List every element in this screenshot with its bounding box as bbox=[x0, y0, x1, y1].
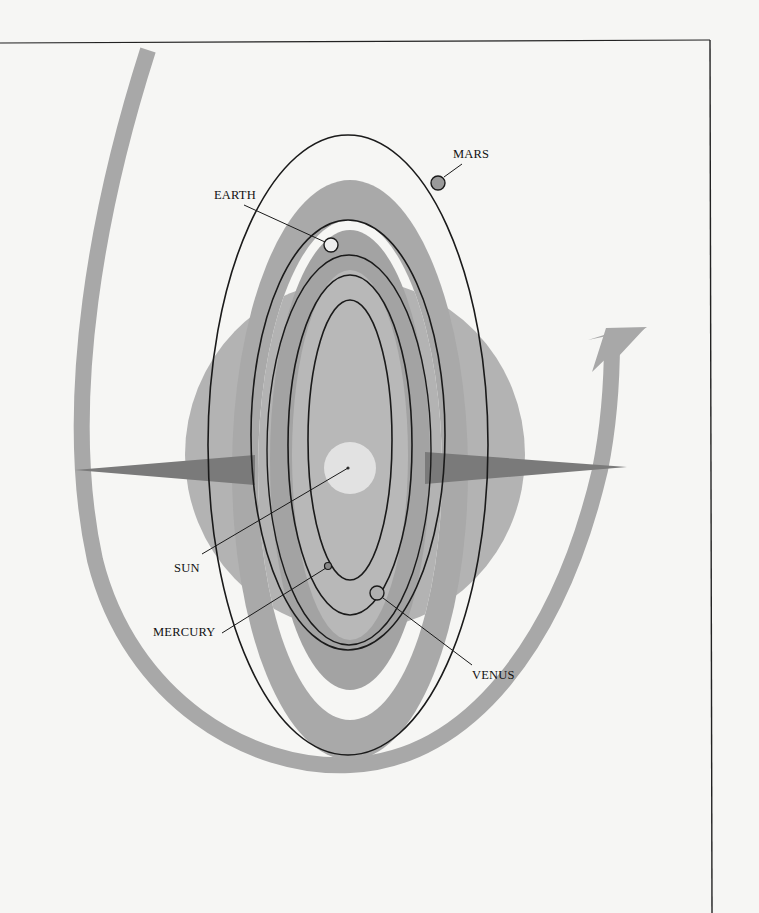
sun-icon bbox=[324, 442, 376, 494]
label-mercury: MERCURY bbox=[153, 625, 216, 640]
label-mars: MARS bbox=[453, 147, 489, 162]
frame-right-line bbox=[710, 40, 712, 913]
label-sun: SUN bbox=[174, 561, 200, 576]
mars-icon bbox=[431, 176, 445, 190]
venus-icon bbox=[370, 586, 384, 600]
book-page: MARS EARTH SUN MERCURY VENUS bbox=[0, 0, 759, 913]
frame-top-line bbox=[0, 40, 710, 43]
plane-spike-left bbox=[75, 455, 255, 485]
label-earth: EARTH bbox=[214, 188, 256, 203]
label-venus: VENUS bbox=[472, 668, 515, 683]
earth-icon bbox=[324, 238, 338, 252]
solar-system-diagram bbox=[0, 0, 759, 913]
leader-mars bbox=[444, 164, 462, 177]
